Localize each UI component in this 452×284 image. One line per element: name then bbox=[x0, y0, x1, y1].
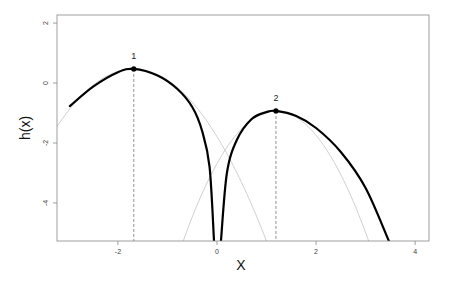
peak-marker-2 bbox=[273, 108, 278, 113]
peak-marker-1 bbox=[131, 66, 136, 71]
component-curve-2 bbox=[57, 111, 429, 271]
plot-area: 12 bbox=[57, 51, 429, 271]
peak-label-1: 1 bbox=[131, 51, 136, 61]
y-axis-title: h(x) bbox=[17, 116, 33, 140]
main-curve-left bbox=[70, 69, 214, 241]
x-tick-label: 4 bbox=[413, 248, 417, 255]
chart-canvas: 12 -202420-2-4 X h(x) bbox=[0, 0, 452, 284]
y-tick-label: -2 bbox=[42, 140, 49, 146]
x-tick-label: 0 bbox=[215, 248, 219, 255]
x-tick-label: 2 bbox=[314, 248, 318, 255]
peak-label-2: 2 bbox=[273, 93, 278, 103]
x-tick-label: -2 bbox=[115, 248, 121, 255]
main-curve-right bbox=[221, 111, 389, 241]
y-tick-label: 2 bbox=[42, 21, 49, 25]
y-tick-label: -4 bbox=[42, 200, 49, 206]
x-axis-title: X bbox=[236, 257, 246, 273]
y-tick-label: 0 bbox=[42, 81, 49, 85]
